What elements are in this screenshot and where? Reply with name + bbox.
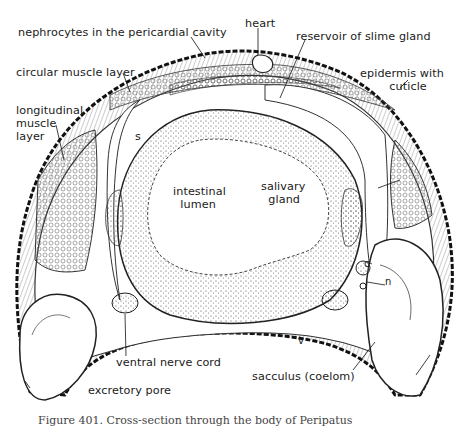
leg-left (20, 294, 97, 400)
label-longitudinal-muscle-layer: longitudinal muscle layer (16, 104, 83, 143)
sacculus (366, 239, 443, 396)
figure-caption: Figure 401. Cross-section through the bo… (38, 414, 352, 427)
heart (252, 55, 272, 73)
label-excretory-pore: excretory pore (88, 384, 171, 397)
cross-section-illustration (0, 0, 461, 432)
label-slime-gland-reservoir: reservoir of slime gland (296, 30, 431, 43)
label-sacculus: sacculus (coelom) (252, 370, 355, 383)
label-salivary-gland: salivary gland (261, 180, 305, 206)
ventral-nerve-cord-left (112, 293, 138, 313)
label-nephrocytes: nephrocytes in the pericardial cavity (18, 26, 227, 39)
label-c: c (364, 257, 370, 270)
label-intestinal-lumen: intestinal lumen (173, 185, 226, 211)
longitudinal-muscle-left (35, 130, 97, 272)
label-epidermis-with-cuticle: epidermis with cuticle (360, 67, 444, 93)
label-s: s (135, 130, 141, 143)
label-ventral-nerve-cord: ventral nerve cord (116, 356, 221, 369)
label-v: v (298, 334, 304, 347)
label-circular-muscle-layer: circular muscle layer (16, 66, 135, 79)
label-n: n (385, 275, 391, 288)
ventral-nerve-cord-right (322, 290, 348, 310)
label-heart: heart (245, 17, 275, 30)
